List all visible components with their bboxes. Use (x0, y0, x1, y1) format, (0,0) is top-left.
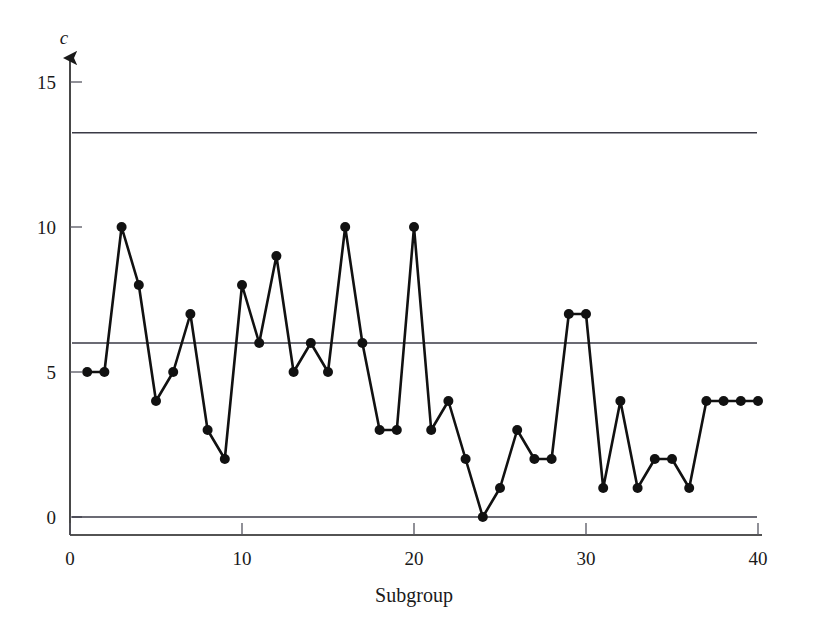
data-point (82, 367, 92, 377)
data-point (443, 396, 453, 406)
data-point (512, 425, 522, 435)
data-point (254, 338, 264, 348)
y-tick-label-0: 0 (47, 507, 57, 528)
data-point (392, 425, 402, 435)
data-point (684, 483, 694, 493)
chart-background (0, 0, 816, 632)
data-point (753, 396, 763, 406)
data-point (323, 367, 333, 377)
data-point (306, 338, 316, 348)
data-point (719, 396, 729, 406)
data-point (168, 367, 178, 377)
x-tick-label-40: 40 (749, 548, 768, 569)
y-tick-label-5: 5 (47, 362, 57, 383)
data-point (357, 338, 367, 348)
data-point (701, 396, 711, 406)
data-point (564, 309, 574, 319)
data-point (237, 280, 247, 290)
data-point (461, 454, 471, 464)
data-point (203, 425, 213, 435)
data-point (495, 483, 505, 493)
y-axis-title: c (60, 27, 69, 48)
data-point (650, 454, 660, 464)
data-point (220, 454, 230, 464)
data-point (736, 396, 746, 406)
x-tick-label-20: 20 (405, 548, 424, 569)
data-point (134, 280, 144, 290)
data-point (478, 512, 488, 522)
data-point (117, 222, 127, 232)
data-point (375, 425, 385, 435)
data-point (271, 251, 281, 261)
x-tick-label-10: 10 (233, 548, 252, 569)
chart-canvas: c 15 10 5 0 0 10 20 30 4 (0, 0, 816, 632)
y-tick-label-10: 10 (37, 217, 56, 238)
data-point (667, 454, 677, 464)
data-point (426, 425, 436, 435)
data-point (340, 222, 350, 232)
data-point (99, 367, 109, 377)
data-point (529, 454, 539, 464)
data-point (151, 396, 161, 406)
data-point (633, 483, 643, 493)
x-tick-label-30: 30 (577, 548, 596, 569)
y-tick-label-15: 15 (37, 72, 56, 93)
c-control-chart: c 15 10 5 0 0 10 20 30 4 (0, 0, 816, 632)
data-point (581, 309, 591, 319)
x-tick-label-0: 0 (65, 548, 75, 569)
data-point (615, 396, 625, 406)
data-point (185, 309, 195, 319)
data-point (598, 483, 608, 493)
data-point (289, 367, 299, 377)
x-axis-title: Subgroup (375, 584, 453, 607)
data-point (547, 454, 557, 464)
data-point (409, 222, 419, 232)
